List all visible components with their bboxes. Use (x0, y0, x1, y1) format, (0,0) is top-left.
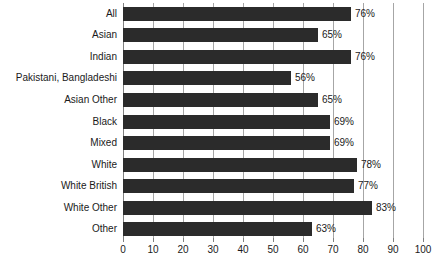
category-label: Black (0, 115, 117, 129)
value-label: 69% (334, 115, 354, 129)
bar-row (123, 93, 423, 107)
bar (123, 50, 351, 64)
bar (123, 115, 330, 129)
x-tick-label-90: 90 (378, 244, 408, 256)
bar-row (123, 136, 423, 150)
x-tick-label-20: 20 (168, 244, 198, 256)
bar (123, 7, 351, 21)
bar-row (123, 222, 423, 236)
bar-row (123, 71, 423, 85)
x-tick-label-10: 10 (138, 244, 168, 256)
x-tick-mark-100 (423, 238, 424, 242)
value-label: 83% (376, 201, 396, 215)
bar (123, 201, 372, 215)
x-tick-label-60: 60 (288, 244, 318, 256)
gridline-100 (423, 3, 424, 240)
bar-row (123, 50, 423, 64)
bar (123, 222, 312, 236)
bar-row (123, 115, 423, 129)
value-label: 65% (322, 28, 342, 42)
x-tick-label-50: 50 (258, 244, 288, 256)
value-label: 65% (322, 93, 342, 107)
x-tick-mark-60 (303, 238, 304, 242)
category-label: White (0, 158, 117, 172)
x-tick-mark-30 (213, 238, 214, 242)
bar-row (123, 28, 423, 42)
value-label: 56% (295, 71, 315, 85)
category-label: All (0, 7, 117, 21)
value-label: 63% (316, 222, 336, 236)
x-tick-label-40: 40 (228, 244, 258, 256)
category-label: Asian (0, 28, 117, 42)
bar (123, 93, 318, 107)
x-tick-mark-10 (153, 238, 154, 242)
x-tick-mark-40 (243, 238, 244, 242)
x-tick-mark-50 (273, 238, 274, 242)
x-tick-mark-0 (123, 238, 124, 242)
x-tick-mark-80 (363, 238, 364, 242)
x-tick-label-80: 80 (348, 244, 378, 256)
bar (123, 28, 318, 42)
value-label: 76% (355, 7, 375, 21)
category-label: Pakistani, Bangladeshi (0, 71, 117, 85)
category-label: Indian (0, 50, 117, 64)
category-label: White British (0, 179, 117, 193)
value-label: 69% (334, 136, 354, 150)
bar (123, 136, 330, 150)
x-tick-mark-20 (183, 238, 184, 242)
x-tick-label-70: 70 (318, 244, 348, 256)
category-label: Asian Other (0, 93, 117, 107)
bar (123, 71, 291, 85)
bar-row (123, 7, 423, 21)
bar-chart: AllAsianIndianPakistani, BangladeshiAsia… (0, 0, 445, 274)
category-label: White Other (0, 201, 117, 215)
x-tick-label-30: 30 (198, 244, 228, 256)
value-label: 77% (358, 179, 378, 193)
category-label: Mixed (0, 136, 117, 150)
x-tick-mark-70 (333, 238, 334, 242)
bar (123, 179, 354, 193)
value-label: 78% (361, 158, 381, 172)
x-tick-label-0: 0 (108, 244, 138, 256)
x-tick-label-100: 100 (408, 244, 438, 256)
value-label: 76% (355, 50, 375, 64)
category-label: Other (0, 222, 117, 236)
bar (123, 158, 357, 172)
x-tick-mark-90 (393, 238, 394, 242)
